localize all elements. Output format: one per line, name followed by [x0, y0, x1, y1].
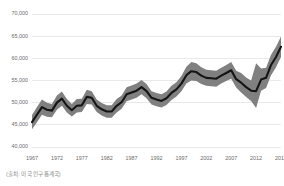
y-axis-tick-label: 55,000 [12, 77, 29, 83]
x-axis-tick-label: 1982 [101, 155, 113, 161]
y-axis-tick-label: 65,000 [12, 33, 29, 39]
x-axis-tick-label: 1967 [26, 155, 38, 161]
y-axis-tick-label: 70,000 [12, 10, 29, 16]
y-axis-tick-label: 40,000 [12, 143, 29, 149]
y-axis-tick-labels: 70,00065,00060,00055,00050,00045,00040,0… [12, 10, 29, 149]
chart-page: 70,00065,00060,00055,00050,00045,00040,0… [0, 0, 284, 186]
uncertainty-band [32, 37, 281, 130]
chart-area: 70,00065,00060,00055,00050,00045,00040,0… [0, 0, 284, 168]
y-axis-tick-label: 60,000 [12, 55, 29, 61]
income-line-chart: 70,00065,00060,00055,00050,00045,00040,0… [0, 0, 284, 168]
x-axis-tick-label: 2007 [225, 155, 237, 161]
x-axis-tick-label: 2002 [200, 155, 212, 161]
x-axis-tick-label: 2017 [275, 155, 284, 161]
source-note: (출처: 미국 인구통계국) [6, 170, 61, 178]
x-axis-tick-label: 1972 [51, 155, 63, 161]
x-axis-tick-label: 2012 [250, 155, 262, 161]
x-axis-tick-label: 1997 [175, 155, 187, 161]
y-axis-tick-label: 50,000 [12, 99, 29, 105]
x-axis-tick-label: 1987 [126, 155, 138, 161]
x-axis-tick-label: 1977 [76, 155, 88, 161]
y-axis-tick-label: 45,000 [12, 121, 29, 127]
x-axis-tick-labels: 1967197219771982198719921997200220072012… [26, 155, 284, 161]
x-axis-tick-label: 1992 [151, 155, 163, 161]
